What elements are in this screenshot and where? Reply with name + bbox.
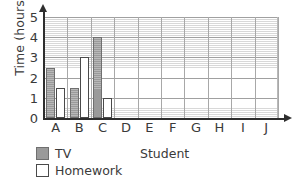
- x-axis-arrow-icon: [284, 114, 292, 122]
- y-axis-tick-label: 5: [22, 11, 38, 24]
- bar-homework-a: [56, 88, 65, 118]
- gridline: [255, 17, 256, 118]
- y-axis-line: [43, 10, 45, 120]
- x-axis-tick-label: G: [184, 121, 207, 135]
- gridline: [67, 17, 68, 118]
- y-axis-tick-label: 4: [22, 31, 38, 44]
- legend-item-homework: Homework: [36, 162, 122, 179]
- legend-swatch-tv-icon: [36, 147, 49, 160]
- gridline: [231, 17, 232, 118]
- y-axis-tick-label: 3: [22, 51, 38, 64]
- gridline: [184, 17, 185, 118]
- plot-area: [44, 17, 278, 118]
- x-axis-title: Student: [140, 146, 189, 161]
- x-axis-tick-label: J: [255, 121, 278, 135]
- legend: TV Homework: [36, 145, 122, 179]
- y-axis-tick-label: 1: [22, 92, 38, 105]
- bar-homework-c: [103, 98, 112, 118]
- y-axis-tick-label: 2: [22, 72, 38, 85]
- bar-tv-b: [70, 88, 79, 118]
- x-axis-tick-label: E: [138, 121, 161, 135]
- x-axis-tick-label: B: [67, 121, 90, 135]
- x-axis-tick-label: I: [231, 121, 254, 135]
- bar-homework-b: [80, 57, 89, 118]
- x-axis-tick-label: H: [208, 121, 231, 135]
- legend-swatch-homework-icon: [36, 164, 49, 177]
- y-axis-arrow-icon: [39, 4, 47, 12]
- y-axis-tick-labels: 012345: [22, 14, 38, 118]
- gridline: [278, 17, 279, 118]
- bar-chart: Time (hours) 012345 ABCDEFGHIJ Student T…: [0, 0, 300, 185]
- gridline: [161, 17, 162, 118]
- gridline: [208, 17, 209, 118]
- x-axis-tick-label: F: [161, 121, 184, 135]
- x-axis-tick-label: D: [114, 121, 137, 135]
- gridline: [91, 17, 92, 118]
- x-axis-tick-label: A: [44, 121, 67, 135]
- legend-label-tv: TV: [55, 146, 71, 161]
- bar-tv-c: [93, 37, 102, 118]
- legend-item-tv: TV: [36, 145, 122, 162]
- x-axis-tick-label: C: [91, 121, 114, 135]
- x-axis-tick-labels: ABCDEFGHIJ: [44, 121, 278, 139]
- gridline: [138, 17, 139, 118]
- bar-tv-a: [46, 68, 55, 119]
- legend-label-homework: Homework: [55, 163, 122, 178]
- y-axis-tick-label: 0: [22, 112, 38, 125]
- gridline: [114, 17, 115, 118]
